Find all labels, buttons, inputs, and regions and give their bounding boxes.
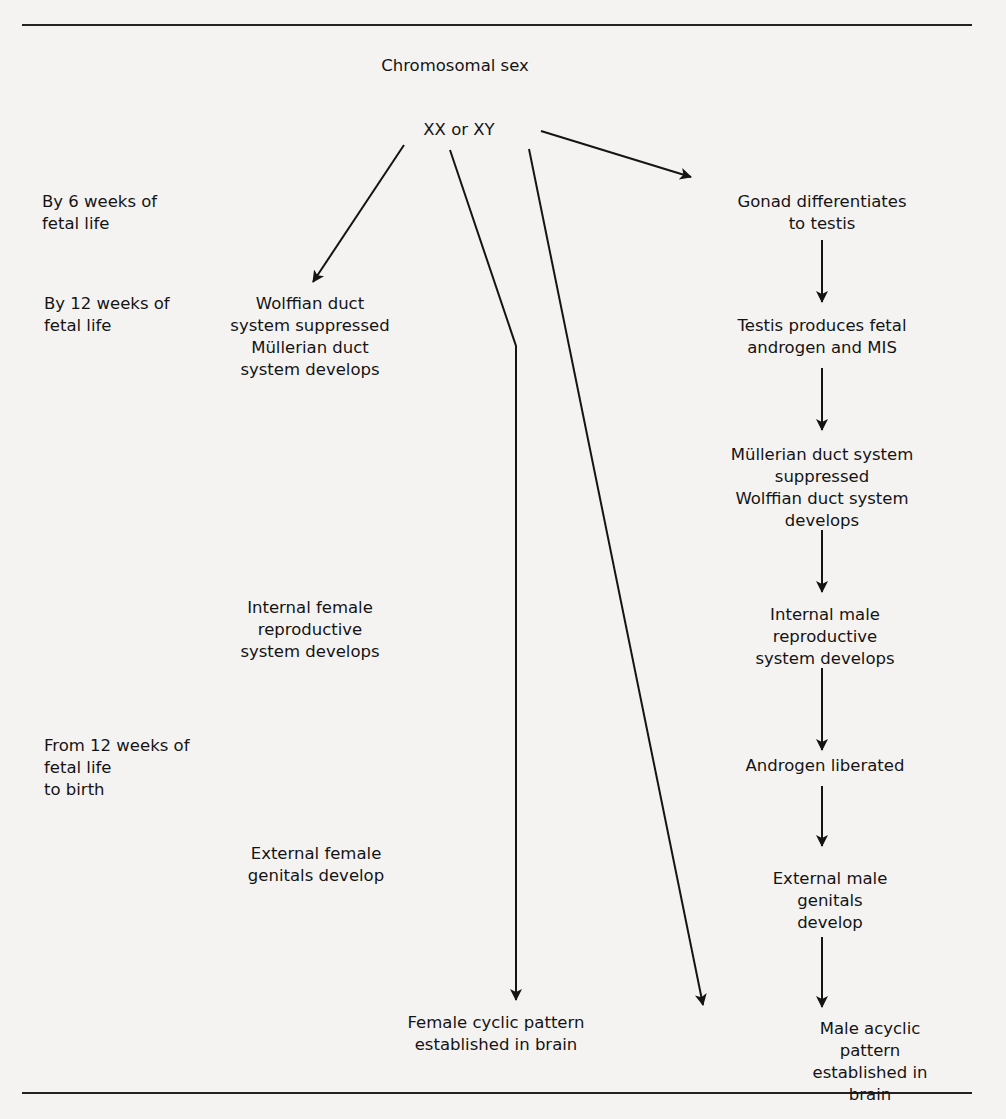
- female-duct-node: Wolffian duct system suppressed Mülleria…: [230, 293, 389, 381]
- root-node: XX or XY: [423, 119, 494, 141]
- connector-arrows: [0, 0, 1006, 1119]
- title: Chromosomal sex: [381, 55, 529, 77]
- arrow-to-gonad: [541, 131, 691, 177]
- male-internal-node: Internal male reproductive system develo…: [735, 604, 916, 670]
- male-androgen-node: Androgen liberated: [746, 755, 905, 777]
- male-duct-node: Müllerian duct system suppressed Wolffia…: [730, 444, 914, 532]
- arrow-to-male-brain: [529, 149, 703, 1005]
- timeline-6-weeks: By 6 weeks of fetal life: [42, 191, 157, 235]
- male-testis-node: Testis produces fetal androgen and MIS: [737, 315, 906, 359]
- female-brain-node: Female cyclic pattern established in bra…: [408, 1012, 585, 1056]
- male-gonad-node: Gonad differentiates to testis: [737, 191, 906, 235]
- female-external-node: External female genitals develop: [248, 843, 384, 887]
- timeline-to-birth: From 12 weeks of fetal life to birth: [44, 735, 189, 801]
- arrow-to-female-brain: [450, 150, 516, 1000]
- male-brain-node: Male acyclic pattern established in brai…: [802, 1018, 938, 1106]
- female-internal-node: Internal female reproductive system deve…: [240, 597, 379, 663]
- arrow-to-female-duct: [313, 145, 404, 282]
- male-external-node: External male genitals develop: [742, 868, 918, 934]
- timeline-12-weeks: By 12 weeks of fetal life: [44, 293, 170, 337]
